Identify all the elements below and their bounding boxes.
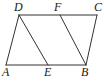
vertex-label-B: B	[81, 66, 88, 78]
vertex-label-A: A	[2, 66, 9, 78]
vertex-label-F: F	[54, 1, 61, 13]
vertex-label-C: C	[94, 1, 102, 13]
vertex-label-E: E	[44, 66, 51, 78]
vertex-label-D: D	[14, 1, 23, 13]
segment-FB	[60, 15, 86, 65]
geometry-figure: D F C A E B	[0, 0, 104, 81]
side-BC-right	[86, 15, 97, 65]
side-AD-left	[6, 15, 19, 65]
segment-DE	[19, 15, 48, 65]
